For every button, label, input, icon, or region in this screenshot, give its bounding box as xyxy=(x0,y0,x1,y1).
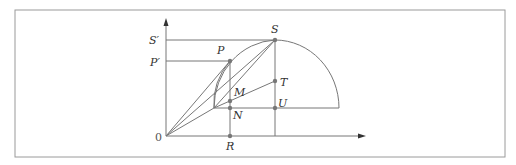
label-m: M xyxy=(233,86,246,99)
point-r xyxy=(228,134,232,138)
label-origin: 0 xyxy=(155,131,162,144)
label-n: N xyxy=(232,109,243,122)
inner-arc xyxy=(214,61,230,108)
label-s-prime: S′ xyxy=(149,34,160,47)
semicircle-arc xyxy=(214,40,339,108)
label-u: U xyxy=(278,97,288,110)
point-t xyxy=(273,79,277,83)
y-axis-arrow-icon xyxy=(164,18,169,26)
ray-o-p xyxy=(166,61,230,136)
ray-o-base xyxy=(166,108,214,136)
label-p: P xyxy=(216,44,225,57)
point-s xyxy=(273,38,277,42)
label-s: S xyxy=(271,23,279,36)
label-r: R xyxy=(225,140,234,153)
point-n xyxy=(228,106,232,110)
geometry-diagram: 0 S′ P′ P S M N T U R xyxy=(0,0,516,165)
point-u xyxy=(273,106,277,110)
point-p xyxy=(228,59,232,63)
point-m xyxy=(228,99,232,103)
x-axis-arrow-icon xyxy=(358,134,366,139)
label-p-prime: P′ xyxy=(149,56,160,69)
diagram-frame xyxy=(15,10,505,157)
label-t: T xyxy=(280,76,289,89)
